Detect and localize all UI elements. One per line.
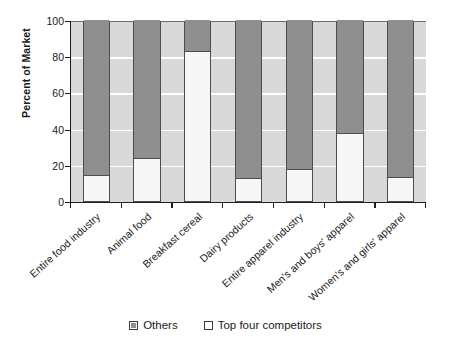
x-axis-tick-mark: [70, 203, 71, 208]
bar-segment-top-four-competitors[interactable]: [134, 158, 159, 201]
bar-slot: [274, 21, 325, 202]
y-axis-tick-label: 100: [34, 16, 64, 26]
bar-segment-others[interactable]: [84, 20, 109, 175]
bar-segment-others[interactable]: [388, 20, 413, 177]
legend-entry[interactable]: Others: [129, 319, 178, 331]
bar-slot: [223, 21, 274, 202]
bar-segment-others[interactable]: [134, 20, 159, 158]
bar-slot: [375, 21, 426, 202]
bar-slot: [325, 21, 376, 202]
stacked-bar[interactable]: [387, 21, 414, 202]
bar-segment-others[interactable]: [236, 20, 261, 178]
stacked-bar[interactable]: [184, 21, 211, 202]
y-axis-tick-label: 0: [34, 197, 64, 207]
legend-swatch-others-icon: [129, 321, 138, 330]
stacked-bar[interactable]: [133, 21, 160, 202]
plot-area: [70, 21, 426, 203]
chart-figure: Percent of Market 020406080100 Entire fo…: [0, 0, 451, 350]
bar-segment-others[interactable]: [337, 20, 362, 133]
bar-slot: [122, 21, 173, 202]
x-axis-tick-mark: [425, 203, 426, 208]
bar-segment-others[interactable]: [185, 20, 210, 51]
bar-slot: [172, 21, 223, 202]
stacked-bar[interactable]: [286, 21, 313, 202]
legend-swatch-top4-icon: [204, 321, 213, 330]
bar-segment-top-four-competitors[interactable]: [388, 177, 413, 201]
x-axis-tick-marks: [70, 203, 425, 209]
bar-segment-top-four-competitors[interactable]: [287, 169, 312, 201]
x-axis-tick-mark: [273, 203, 274, 208]
x-axis-tick-mark: [121, 203, 122, 208]
bar-segment-top-four-competitors[interactable]: [185, 51, 210, 201]
y-axis-tick-label: 20: [34, 161, 64, 171]
x-axis-tick-mark: [222, 203, 223, 208]
legend-label: Others: [143, 319, 178, 331]
bar-segment-top-four-competitors[interactable]: [84, 175, 109, 201]
y-axis-title: Percent of Market: [20, 0, 32, 153]
bar-segment-top-four-competitors[interactable]: [337, 133, 362, 201]
x-axis-tick-mark: [324, 203, 325, 208]
bar-segment-top-four-competitors[interactable]: [236, 178, 261, 201]
y-axis-tick-label: 60: [34, 88, 64, 98]
y-axis-tick-labels: 020406080100: [34, 21, 64, 202]
stacked-bar[interactable]: [83, 21, 110, 202]
legend-label: Top four competitors: [218, 319, 322, 331]
bar-series-container: [71, 21, 426, 202]
x-axis-tick-mark: [171, 203, 172, 208]
y-axis-tick-label: 40: [34, 125, 64, 135]
y-axis-tick-label: 80: [34, 52, 64, 62]
stacked-bar[interactable]: [336, 21, 363, 202]
bar-segment-others[interactable]: [287, 20, 312, 169]
chart-legend: OthersTop four competitors: [0, 319, 451, 331]
x-axis-tick-mark: [374, 203, 375, 208]
stacked-bar[interactable]: [235, 21, 262, 202]
legend-entry[interactable]: Top four competitors: [204, 319, 322, 331]
bar-slot: [71, 21, 122, 202]
